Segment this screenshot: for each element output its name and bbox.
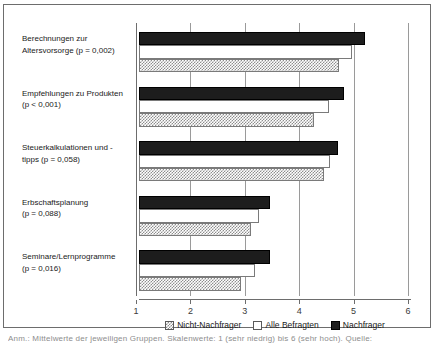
category-label-line: Seminare/Lernprogramme	[22, 251, 136, 263]
bar-nachfrager-4	[139, 250, 270, 263]
x-tick-label-5: 5	[342, 306, 366, 317]
bar-nicht-2	[139, 168, 324, 181]
x-tick-label-1: 1	[124, 306, 148, 317]
bar-alle-3	[139, 209, 259, 222]
legend-swatch-nicht-icon	[165, 321, 174, 330]
bar-alle-2	[139, 155, 330, 168]
category-label-line: Steuerkalkulationen und -	[22, 142, 136, 154]
legend-item-alle[interactable]: Alle Befragten	[253, 320, 318, 330]
gridline-1	[136, 23, 137, 296]
x-tick-label-3: 3	[233, 306, 257, 317]
bar-nicht-3	[139, 223, 251, 236]
category-label-line: Empfehlungen zu Produkten	[22, 88, 136, 100]
x-tick-label-4: 4	[287, 306, 311, 317]
x-tick-mark-2	[190, 300, 191, 304]
x-tick-mark-5	[354, 300, 355, 304]
bar-alle-4	[139, 264, 255, 277]
x-tick-mark-1	[136, 300, 137, 304]
bar-nicht-1	[139, 113, 314, 126]
category-label-0: Berechnungen zurAltersvorsorge (p = 0,00…	[22, 33, 136, 56]
category-label-2: Steuerkalkulationen und -tipps (p = 0,05…	[22, 142, 136, 165]
category-label-line: Erbschaftsplanung	[22, 197, 136, 209]
chart-frame: Berechnungen zurAltersvorsorge (p = 0,00…	[3, 4, 431, 328]
plot-area	[139, 27, 411, 300]
legend-label: Nachfrager	[343, 320, 385, 330]
bar-nicht-0	[139, 59, 339, 72]
bar-nicht-4	[139, 277, 241, 290]
legend-item-nachfrager[interactable]: Nachfrager	[331, 320, 385, 330]
legend-label: Alle Befragten	[265, 320, 318, 330]
bar-alle-0	[139, 45, 352, 58]
category-label-4: Seminare/Lernprogramme(p = 0,016)	[22, 251, 136, 274]
x-tick-label-2: 2	[178, 306, 202, 317]
bar-nachfrager-0	[139, 32, 365, 45]
category-label-line: Berechnungen zur	[22, 33, 136, 45]
x-tick-mark-6	[408, 300, 409, 304]
legend-swatch-alle-icon	[253, 321, 262, 330]
figure-caption: Anm.: Mittelwerte der jeweiligen Gruppen…	[8, 333, 432, 346]
bar-nachfrager-2	[139, 141, 338, 154]
legend-item-nicht[interactable]: Nicht-Nachfrager	[165, 320, 241, 330]
legend-swatch-nachfrager-icon	[331, 321, 340, 330]
chart-legend: Nicht-NachfragerAlle BefragtenNachfrager	[139, 320, 411, 330]
bar-alle-1	[139, 100, 329, 113]
legend-label: Nicht-Nachfrager	[177, 320, 241, 330]
category-label-line: (p < 0,001)	[22, 99, 136, 111]
category-label-line: tipps (p = 0,058)	[22, 154, 136, 166]
x-tick-mark-3	[245, 300, 246, 304]
category-label-line: (p = 0,088)	[22, 208, 136, 220]
bar-nachfrager-3	[139, 196, 270, 209]
x-tick-label-6: 6	[396, 306, 420, 317]
category-label-line: Altersvorsorge (p = 0,002)	[22, 45, 136, 57]
x-tick-mark-4	[299, 300, 300, 304]
chart-figure: Berechnungen zurAltersvorsorge (p = 0,00…	[0, 0, 436, 346]
category-label-1: Empfehlungen zu Produkten(p < 0,001)	[22, 88, 136, 111]
category-label-3: Erbschaftsplanung(p = 0,088)	[22, 197, 136, 220]
x-axis-line	[139, 299, 411, 300]
bar-nachfrager-1	[139, 87, 344, 100]
category-label-line: (p = 0,016)	[22, 263, 136, 275]
